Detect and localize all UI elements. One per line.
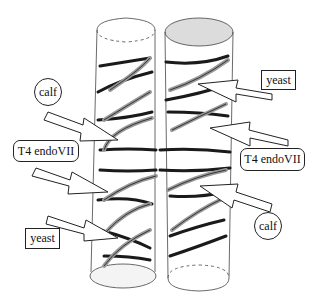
label-right-yeast: yeast xyxy=(261,70,296,90)
arrow-right-calf xyxy=(200,184,272,212)
label-left-calf: calf xyxy=(34,78,62,106)
arrow-left-t4 xyxy=(32,168,108,194)
label-right-calf: calf xyxy=(254,212,282,240)
arrow-right-t4 xyxy=(210,122,288,146)
label-left-yeast: yeast xyxy=(25,228,60,249)
label-left-t4-endovii: T4 endoVII xyxy=(13,140,79,162)
label-right-t4-endovii: T4 endoVII xyxy=(240,148,305,171)
